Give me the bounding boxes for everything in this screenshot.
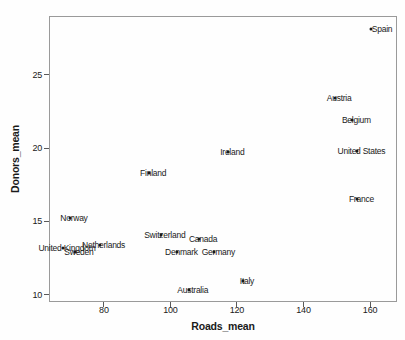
- data-point-marker-spain: [370, 28, 373, 31]
- scatter-chart: Donors_mean Roads_mean 10152025801001201…: [0, 0, 405, 340]
- data-point-marker-italy: [241, 280, 244, 283]
- x-tick-label: 100: [163, 305, 177, 315]
- data-point-marker-belgium: [351, 119, 354, 122]
- data-point-marker-austria: [334, 97, 337, 100]
- data-point-label-united-states: United States: [338, 146, 386, 156]
- data-point-marker-germany: [213, 251, 216, 254]
- data-point-marker-sweden: [73, 251, 76, 254]
- data-point-marker-france: [356, 198, 359, 201]
- x-tick-label: 120: [230, 305, 244, 315]
- y-tick-mark: [44, 148, 49, 149]
- data-point-marker-australia: [187, 289, 190, 292]
- data-point-label-finland: Finland: [140, 168, 166, 178]
- y-tick-mark: [44, 74, 49, 75]
- x-tick-label: 160: [363, 305, 377, 315]
- data-point-marker-denmark: [176, 251, 179, 254]
- data-point-marker-ireland: [227, 151, 230, 154]
- data-point-label-spain: Spain: [372, 24, 393, 34]
- data-point-marker-united-states: [356, 149, 359, 152]
- x-tick-label: 80: [99, 305, 109, 315]
- data-point-marker-norway: [68, 217, 71, 220]
- data-point-marker-netherlands: [98, 243, 101, 246]
- plot-area: [49, 16, 397, 302]
- data-point-marker-switzerland: [159, 233, 162, 236]
- y-tick-label: 25: [32, 70, 42, 80]
- data-point-label-austria: Austria: [327, 93, 352, 103]
- data-point-label-france: France: [349, 194, 374, 204]
- data-point-marker-united-kingdom: [61, 246, 64, 249]
- data-point-label-australia: Australia: [177, 285, 208, 295]
- y-axis-title: Donors_mean: [9, 125, 21, 193]
- x-axis-title: Roads_mean: [191, 320, 254, 332]
- data-point-label-ireland: Ireland: [220, 147, 244, 157]
- y-tick-label: 15: [32, 216, 42, 226]
- data-point-label-belgium: Belgium: [342, 115, 371, 125]
- data-point-marker-canada: [198, 237, 201, 240]
- data-point-label-norway: Norway: [60, 213, 87, 223]
- x-tick-label: 140: [296, 305, 310, 315]
- data-point-label-switzerland: Switzerland: [144, 230, 185, 240]
- data-point-label-denmark: Denmark: [165, 247, 198, 257]
- y-tick-label: 20: [32, 143, 42, 153]
- data-point-marker-finland: [148, 171, 151, 174]
- y-tick-mark: [44, 221, 49, 222]
- y-tick-mark: [44, 294, 49, 295]
- data-point-label-germany: Germany: [202, 247, 235, 257]
- data-point-label-canada: Canada: [189, 234, 217, 244]
- data-point-label-sweden: Sweden: [64, 247, 93, 257]
- y-tick-label: 10: [32, 290, 42, 300]
